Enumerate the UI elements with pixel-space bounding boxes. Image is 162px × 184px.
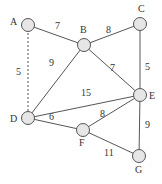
edge-weight-c-e: 5 — [145, 61, 150, 72]
node-label-g: G — [135, 164, 142, 175]
edge-weight-b-c: 8 — [106, 24, 111, 35]
edge-b-c — [84, 24, 140, 45]
edge-e-g — [139, 95, 140, 156]
node-b — [78, 39, 91, 52]
node-label-d: D — [10, 113, 17, 124]
node-g — [133, 150, 146, 163]
edge-weight-a-d: 5 — [16, 66, 21, 77]
node-a — [22, 19, 35, 32]
edge-weight-f-g: 11 — [104, 147, 114, 158]
node-c — [134, 18, 147, 31]
node-label-f: F — [79, 137, 85, 148]
graph-diagram: 7589751568911 ABCDEFG — [0, 0, 162, 184]
edge-b-d — [28, 45, 84, 118]
node-label-b: B — [80, 24, 87, 35]
edge-e-f — [83, 95, 140, 130]
edge-weight-b-d: 9 — [49, 57, 54, 68]
edge-d-e — [28, 95, 140, 118]
edge-weight-e-g: 9 — [145, 119, 150, 130]
edge-weight-e-f: 8 — [100, 108, 105, 119]
edge-weight-a-b: 7 — [55, 20, 60, 31]
edge-d-f — [28, 118, 83, 130]
node-label-c: C — [138, 3, 145, 14]
edge-weight-b-e: 7 — [110, 62, 115, 73]
node-f — [77, 124, 90, 137]
node-d — [22, 112, 35, 125]
edge-weight-d-e: 15 — [81, 87, 91, 98]
node-e — [134, 89, 147, 102]
node-label-e: E — [149, 90, 155, 101]
edge-weight-d-f: 6 — [49, 111, 54, 122]
node-label-a: A — [10, 16, 18, 27]
